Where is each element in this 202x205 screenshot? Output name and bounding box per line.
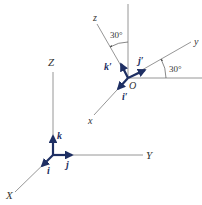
z-angle-arc — [110, 42, 128, 47]
Y-axis-label: Y — [146, 149, 154, 161]
z-angle-label: 30° — [110, 30, 123, 40]
i-prime-unit-vector — [118, 78, 128, 89]
k-label: k — [57, 130, 62, 141]
rotated-frame: z y x 30° 30° k′ j′ i′ O — [87, 4, 202, 126]
X-axis-label: X — [5, 189, 14, 201]
x-axis-label: x — [87, 115, 93, 126]
y-angle-label: 30° — [169, 64, 182, 74]
origin-O-label: O — [129, 80, 136, 91]
j-prime-label: j′ — [136, 55, 144, 66]
j-prime-unit-vector — [128, 70, 145, 78]
k-prime-label: k′ — [104, 61, 112, 72]
y-angle-arc — [161, 59, 166, 78]
k-prime-unit-vector — [121, 64, 128, 78]
Z-axis-label: Z — [48, 56, 55, 68]
i-label: i — [47, 165, 50, 176]
z-axis-label: z — [92, 12, 97, 23]
i-prime-label: i′ — [122, 91, 128, 102]
y-axis-label: y — [193, 36, 199, 47]
coordinate-frames-diagram: Z Y X k j i z y x 30° 30° k′ j′ i′ O — [0, 0, 202, 205]
j-label: j — [64, 159, 69, 170]
